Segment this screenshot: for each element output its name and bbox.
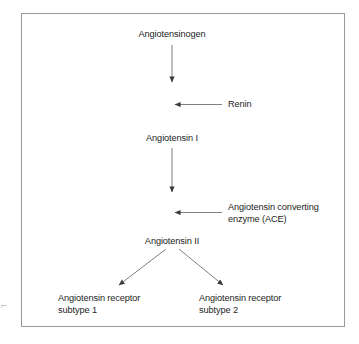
node-renin: Renin [228, 99, 252, 111]
node-angiotensinogen: Angiotensinogen [139, 29, 206, 41]
node-receptor-subtype-1: Angiotensin receptor subtype 1 [58, 293, 140, 316]
node-angiotensin-2: Angiotensin II [145, 236, 199, 248]
node-angiotensin-1: Angiotensin I [146, 133, 198, 145]
page-edge-artifact: ⌐ [1, 297, 13, 313]
node-ace: Angiotensin converting enzyme (ACE) [228, 202, 319, 225]
arrow-angiotensin-2-to-receptor-2 [179, 249, 223, 285]
arrow-layer [0, 0, 359, 344]
figure-canvas: Angiotensinogen Renin Angiotensin I Angi… [0, 0, 359, 344]
node-receptor-subtype-2: Angiotensin receptor subtype 2 [199, 293, 281, 316]
arrow-angiotensin-2-to-receptor-1 [119, 249, 166, 285]
